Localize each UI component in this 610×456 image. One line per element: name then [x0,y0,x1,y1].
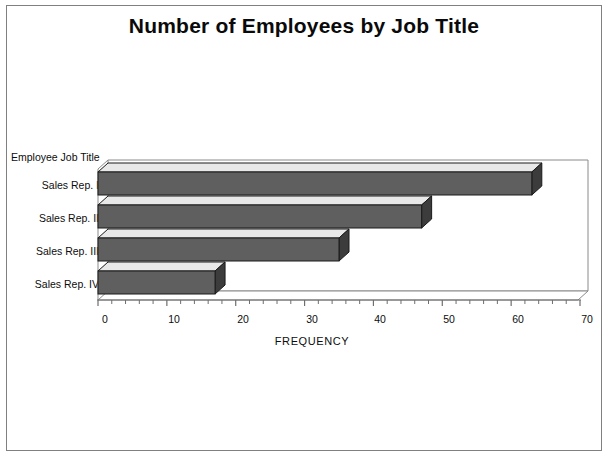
xtick-label-0: 0 [90,313,120,325]
xtick-label-7: 70 [572,313,602,325]
category-axis-title: Employee Job Title [11,151,100,163]
chart-title: Number of Employees by Job Title [7,14,601,38]
xtick-label-3: 30 [297,313,327,325]
xtick-label-1: 10 [159,313,189,325]
x-axis-title: FREQUENCY [7,335,610,347]
xtick-label-4: 40 [365,313,395,325]
xtick-label-2: 20 [228,313,258,325]
category-label-1: Sales Rep. II [7,212,99,224]
category-label-3: Sales Rep. IV [7,278,99,290]
xtick-label-6: 60 [503,313,533,325]
chart-page-frame: Number of Employees by Job Title Employe… [6,5,602,451]
xtick-label-5: 50 [434,313,464,325]
category-label-0: Sales Rep. I [7,179,99,191]
category-label-2: Sales Rep. III [7,245,99,257]
